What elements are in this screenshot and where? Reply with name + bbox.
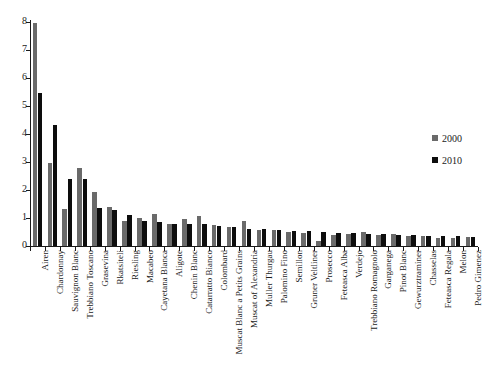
- bar-2000: [77, 168, 82, 246]
- bar-2000: [107, 207, 112, 246]
- bar-2010: [307, 231, 312, 246]
- bar-2010: [381, 234, 386, 246]
- bar-2000: [466, 237, 471, 246]
- category-label: Trebbiano Toscano: [86, 250, 95, 319]
- bar-2000: [122, 221, 127, 246]
- category-labels: AirenChardonnaySauvignon BlancTrebbiano …: [30, 250, 478, 380]
- category-label: Garganega: [384, 250, 393, 289]
- bar-group: [149, 22, 164, 246]
- category-label: Feteasca Regala: [444, 250, 453, 308]
- category-label: Verdejo: [355, 250, 364, 278]
- bar-group: [120, 22, 135, 246]
- bar-2000: [361, 232, 366, 246]
- bar-2010: [321, 232, 326, 246]
- y-tick-label: 2: [22, 183, 27, 195]
- bar-2000: [406, 236, 411, 246]
- bar-group: [90, 22, 105, 246]
- bar-2010: [396, 235, 401, 246]
- bar-group: [403, 22, 418, 246]
- bar-2010: [112, 210, 117, 246]
- bar-2010: [336, 233, 341, 246]
- category-label: Muscat Blanc a Petits Grains: [235, 250, 244, 354]
- bar-2000: [391, 234, 396, 246]
- category-label: Cayetana Blanca: [160, 250, 169, 311]
- category-label: Sauvignon Blanc: [71, 250, 80, 312]
- category-label: Palomino Fino: [280, 250, 289, 303]
- bar-2000: [92, 192, 97, 246]
- bar-group: [359, 22, 374, 246]
- category-label: Gewurztraminer: [414, 250, 423, 309]
- bar-2010: [277, 230, 282, 246]
- bar-chart: 012345678 AirenChardonnaySauvignon Blanc…: [0, 0, 496, 382]
- bar-group: [224, 22, 239, 246]
- bar-2000: [167, 224, 172, 246]
- category-label: Gruner Veltliner: [310, 250, 319, 309]
- bar-2000: [62, 209, 67, 246]
- bar-group: [60, 22, 75, 246]
- bar-2010: [53, 125, 58, 246]
- bar-2010: [292, 231, 297, 246]
- bar-2000: [316, 241, 321, 246]
- bar-2010: [187, 224, 192, 246]
- bar-group: [269, 22, 284, 246]
- category-label: Semillon: [295, 250, 304, 283]
- y-tick-label: 3: [22, 155, 27, 167]
- category-label: Trebbiano Romagnolo: [370, 250, 379, 331]
- chart-legend: 2000 2010: [432, 131, 492, 175]
- bar-2010: [247, 229, 252, 246]
- y-tick-label: 6: [22, 71, 27, 83]
- bar-2010: [262, 229, 267, 246]
- category-label: Rkatsiteli: [116, 250, 125, 285]
- y-tick-label: 0: [22, 239, 27, 251]
- bar-2000: [48, 163, 53, 246]
- category-label: Pinot Blanc: [399, 250, 408, 292]
- bar-2010: [172, 224, 177, 246]
- category-label: Melon: [459, 250, 468, 274]
- bar-2010: [142, 221, 147, 246]
- bar-2000: [227, 227, 232, 246]
- legend-swatch-icon-2000: [432, 135, 438, 141]
- bar-group: [75, 22, 90, 246]
- category-label: Chenin Blanc: [190, 250, 199, 299]
- bar-2010: [441, 236, 446, 246]
- bar-2010: [366, 234, 371, 246]
- bar-group: [254, 22, 269, 246]
- bar-2000: [421, 236, 426, 246]
- bar-2000: [376, 235, 381, 246]
- bar-2000: [212, 225, 217, 246]
- bar-group: [329, 22, 344, 246]
- bar-2010: [38, 93, 43, 246]
- category-label: Aligote: [175, 250, 184, 277]
- legend-item-2010: 2010: [432, 153, 492, 167]
- bar-2010: [351, 233, 356, 246]
- bar-group: [239, 22, 254, 246]
- bar-group: [344, 22, 359, 246]
- bar-2000: [242, 221, 247, 246]
- category-label: Muscat of Alexandria: [250, 250, 259, 328]
- y-tick-label: 1: [22, 211, 27, 223]
- legend-swatch-icon-2010: [432, 157, 438, 163]
- bar-2010: [411, 235, 416, 246]
- bar-group: [179, 22, 194, 246]
- bar-group: [164, 22, 179, 246]
- bar-2010: [83, 179, 88, 246]
- bar-2010: [456, 236, 461, 246]
- bar-2010: [127, 215, 132, 246]
- bar-2010: [157, 222, 162, 246]
- bar-2000: [286, 232, 291, 246]
- y-tick-label: 5: [22, 99, 27, 111]
- bar-2000: [182, 219, 187, 246]
- bar-2010: [97, 208, 102, 246]
- category-label: Muller Thurgau: [265, 250, 274, 307]
- bar-group: [373, 22, 388, 246]
- bar-2010: [232, 227, 237, 246]
- category-label: Riesling: [131, 250, 140, 280]
- bar-2000: [451, 238, 456, 246]
- bar-group: [388, 22, 403, 246]
- bar-group: [314, 22, 329, 246]
- bar-2010: [426, 236, 431, 246]
- bar-group: [284, 22, 299, 246]
- legend-label-2000: 2000: [442, 133, 462, 144]
- category-label: Feteasca Alba: [340, 250, 349, 300]
- bar-group: [135, 22, 150, 246]
